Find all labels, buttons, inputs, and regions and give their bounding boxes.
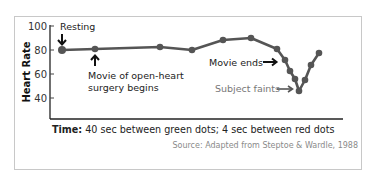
tick-40: 40	[34, 93, 47, 104]
up-arrow-icon	[91, 56, 99, 67]
source-note: Source: Adapted from Steptoe & Wardle, 1…	[172, 141, 358, 150]
down-arrow-icon	[58, 34, 66, 45]
x-axis-note: Time: 40 sec between green dots; 4 sec b…	[52, 124, 334, 135]
right-arrow-icon	[263, 59, 277, 66]
subject-faints-label: Subject faints	[215, 83, 280, 94]
time-description: 40 sec between green dots; 4 sec between…	[82, 124, 334, 135]
movie-begins-label-line1: Movie of open-heart	[88, 70, 184, 81]
resting-label: Resting	[60, 21, 95, 32]
tick-80: 80	[34, 45, 47, 56]
time-label: Time:	[52, 124, 82, 135]
tick-100: 100	[28, 21, 47, 32]
movie-ends-label: Movie ends	[209, 57, 263, 68]
movie-begins-label-line2: surgery begins	[88, 82, 159, 93]
tick-60: 60	[34, 69, 47, 80]
y-axis-label: Heart Rate	[21, 41, 32, 102]
